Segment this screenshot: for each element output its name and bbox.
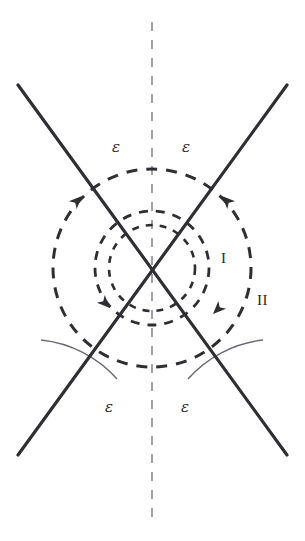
arrowhead-inner-lower-left <box>97 295 114 312</box>
epsilon-bottom-left-label: ε <box>105 400 113 415</box>
epsilon-top-left-label: ε <box>112 140 120 155</box>
arrowhead-outer-lower-right <box>209 301 226 318</box>
epsilon-bottom-right-label: ε <box>181 400 189 415</box>
figure-canvas: ε ε I II ε ε <box>0 0 305 541</box>
region-label-one: I <box>221 251 227 266</box>
arrowhead-outer-upper-left <box>69 192 86 209</box>
diagram-svg <box>0 0 305 541</box>
angle-arc-bottom-right <box>188 340 263 379</box>
epsilon-top-right-label: ε <box>182 140 190 155</box>
region-label-two: II <box>257 293 268 308</box>
